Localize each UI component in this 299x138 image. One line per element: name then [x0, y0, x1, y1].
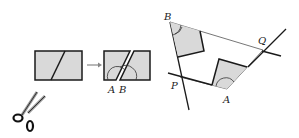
arrow-right-icon: [87, 63, 102, 68]
geometry-diagram: A B B Q A P: [0, 0, 299, 138]
label-a: A: [222, 94, 230, 105]
scissors-icon: [14, 92, 46, 131]
label-a-left: A: [107, 84, 115, 95]
label-p: P: [170, 80, 178, 91]
label-q: Q: [258, 35, 266, 46]
label-b: B: [163, 11, 171, 22]
label-b-left: B: [118, 84, 126, 95]
quadrilateral-construction: B Q A P: [163, 11, 286, 110]
split-rectangle: A B: [104, 51, 150, 95]
original-rectangle: [35, 51, 82, 80]
